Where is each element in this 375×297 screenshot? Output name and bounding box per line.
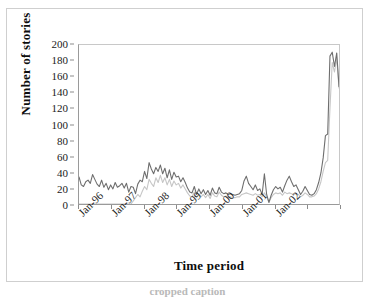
y-tick-label-180: 180 [52, 55, 69, 66]
y-tick-mark-160 [70, 76, 74, 77]
y-tick-mark-20 [70, 188, 74, 189]
chart-figure: Number of stories 0204060801001201401601… [0, 0, 375, 297]
y-axis-tick-labels: 020406080100120140160180200 [32, 44, 74, 205]
caption-clip: cropped caption [0, 286, 375, 297]
y-tick-label-200: 200 [52, 39, 69, 50]
y-tick-mark-140 [70, 92, 74, 93]
y-tick-mark-200 [70, 44, 74, 45]
x-axis-title: Time period [78, 258, 340, 274]
y-tick-label-20: 20 [57, 183, 68, 194]
y-tick-label-120: 120 [52, 103, 69, 114]
y-tick-label-80: 80 [57, 135, 68, 146]
y-tick-label-140: 140 [52, 87, 69, 98]
y-tick-mark-0 [70, 205, 74, 206]
y-tick-mark-40 [70, 172, 74, 173]
y-tick-mark-180 [70, 60, 74, 61]
data-line-dark [79, 52, 339, 202]
plot-lines [79, 45, 339, 204]
x-tick-mark-8 [340, 205, 341, 209]
y-tick-mark-60 [70, 156, 74, 157]
y-tick-label-160: 160 [52, 71, 69, 82]
y-tick-label-60: 60 [57, 151, 68, 162]
y-tick-mark-80 [70, 140, 74, 141]
y-tick-mark-100 [70, 124, 74, 125]
y-tick-mark-120 [70, 108, 74, 109]
plot-area [78, 44, 340, 205]
x-tick-mark-7 [307, 205, 308, 209]
x-axis-tick-labels: Jan-96Jan-97Jan-98Jan-99Jan-00Jan-01Jan-… [78, 210, 358, 254]
y-tick-label-0: 0 [63, 200, 69, 211]
y-tick-label-100: 100 [52, 119, 69, 130]
figure-caption: cropped caption [150, 286, 226, 297]
data-line-light [79, 59, 339, 204]
y-tick-label-40: 40 [57, 167, 68, 178]
